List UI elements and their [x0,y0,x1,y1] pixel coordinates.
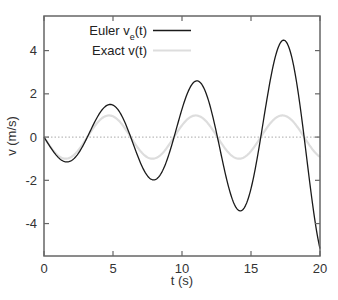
y-tick-label: 2 [30,86,37,101]
legend-label: Euler ve(t) [89,23,147,42]
y-tick-label: -4 [25,216,37,231]
y-tick-label: 0 [30,130,37,145]
legend-label: Exact v(t) [92,43,147,58]
x-tick-label: 20 [313,261,327,276]
legend: Euler ve(t)Exact v(t) [89,23,191,58]
plot-frame [44,16,320,256]
x-tick-label: 15 [244,261,258,276]
y-axis-label: v (m/s) [4,116,19,156]
x-tick-label: 0 [40,261,47,276]
x-axis-label: t (s) [171,273,193,288]
y-tick-label: -2 [25,173,37,188]
x-tick-label: 5 [109,261,116,276]
y-tick-label: 4 [30,43,37,58]
chart: 05101520 -4-2024 t (s) v (m/s) Euler ve(… [0,0,338,300]
series-line [44,40,320,248]
series-euler-ve [44,40,320,248]
